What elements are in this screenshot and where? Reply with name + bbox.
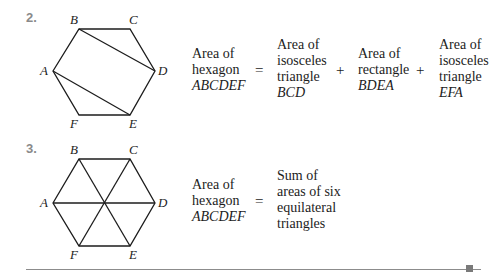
vertex-label-b: B [70, 142, 78, 158]
vertex-label-c: C [129, 142, 138, 158]
text-line: areas of six [277, 184, 341, 200]
section-divider-tail [473, 269, 481, 270]
equation-lhs: Area of hexagon ABCDEF [192, 177, 246, 225]
text-line: equilateral [277, 200, 341, 216]
vertex-label-d: D [158, 195, 167, 211]
text-line: hexagon [192, 193, 246, 209]
end-marker-square [466, 265, 473, 272]
text-line: Area of [192, 177, 246, 193]
vertex-label-f: F [70, 247, 78, 263]
hexagon-diagram-3 [0, 0, 503, 272]
text-line: ABCDEF [192, 209, 246, 225]
text-line: Sum of [277, 168, 341, 184]
equation-rhs: Sum of areas of six equilateral triangle… [277, 168, 341, 232]
vertex-label-a: A [40, 195, 48, 211]
equals-sign: = [255, 193, 263, 210]
vertex-label-e: E [129, 247, 137, 263]
section-divider [26, 269, 470, 270]
text-line: triangles [277, 216, 341, 232]
